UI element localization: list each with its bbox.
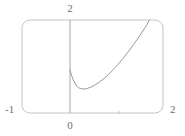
x-axis-min-label: -1 — [5, 104, 14, 115]
x-axis-max-label: 2 — [170, 104, 176, 115]
function-plot-figure: 2 0 -1 2 — [0, 0, 185, 136]
plot-frame — [22, 20, 163, 113]
origin-label: 0 — [0, 120, 140, 131]
plot-canvas — [0, 0, 185, 136]
y-axis-max-label: 2 — [0, 3, 140, 14]
